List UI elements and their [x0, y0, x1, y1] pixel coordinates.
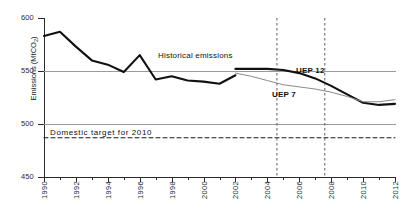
y-tick-label-500: 500 [0, 120, 34, 128]
x-minor-tick-2001 [220, 177, 221, 180]
y-tick-600 [38, 18, 44, 19]
x-minor-tick-1991 [60, 177, 61, 180]
x-tick-label-2002: 2002 [231, 181, 240, 199]
x-tick-label-2012: 2012 [391, 181, 400, 199]
x-tick-label-2008: 2008 [327, 181, 336, 199]
y-tick-550 [38, 71, 44, 72]
y-axis-title-subscript: 2 [32, 39, 38, 42]
y-tick-label-600: 600 [0, 14, 34, 22]
y-tick-label-550: 550 [0, 67, 34, 75]
x-minor-tick-1993 [92, 177, 93, 180]
x-tick-label-1992: 1992 [72, 181, 81, 199]
x-minor-tick-2009 [347, 177, 348, 180]
x-tick-label-1994: 1994 [104, 181, 113, 199]
x-tick-label-2004: 2004 [263, 181, 272, 199]
x-minor-tick-1995 [124, 177, 125, 180]
y-tick-500 [38, 124, 44, 125]
gridline-550 [44, 71, 396, 72]
x-minor-tick-2007 [315, 177, 316, 180]
x-tick-label-1996: 1996 [136, 181, 145, 199]
series-uep-7 [235, 73, 395, 102]
x-minor-tick-2003 [251, 177, 252, 180]
annotation-uep-12: UEP 12 [296, 66, 325, 75]
gridline-500 [44, 124, 396, 125]
x-minor-tick-1999 [188, 177, 189, 180]
annotation-uep-7: UEP 7 [272, 90, 296, 99]
x-minor-tick-1997 [156, 177, 157, 180]
x-tick-label-2010: 2010 [359, 181, 368, 199]
annotation-domestic-target: Domestic target for 2010 [50, 128, 152, 137]
emissions-projection-chart: Emissions (MtCO2) 600550500450 199019921… [0, 0, 413, 220]
annotation-historical-emissions: Historical emissions [158, 51, 233, 60]
x-tick-label-1998: 1998 [168, 181, 177, 199]
x-tick-label-2006: 2006 [295, 181, 304, 199]
y-tick-label-450: 450 [0, 173, 34, 181]
x-tick-label-2000: 2000 [200, 181, 209, 199]
x-minor-tick-2011 [379, 177, 380, 180]
y-axis-line [44, 18, 45, 178]
x-minor-tick-2005 [283, 177, 284, 180]
x-tick-label-1990: 1990 [40, 181, 49, 199]
